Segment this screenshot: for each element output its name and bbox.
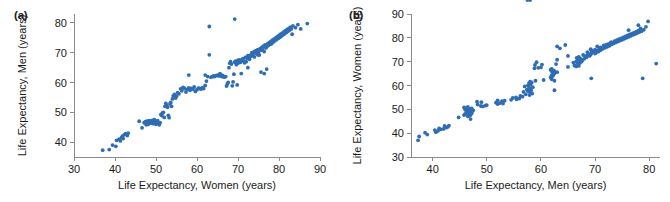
x-tick-label: 60 (535, 163, 547, 175)
data-point (256, 53, 260, 57)
figure-root: (a) 304050607080904050607080Life Expecta… (0, 0, 670, 202)
x-tick-label: 50 (150, 163, 162, 175)
panel-b: (b) 405060708030405060708090Life Expecta… (335, 0, 670, 202)
data-point (496, 98, 500, 102)
data-point (259, 70, 263, 74)
data-point (161, 110, 165, 114)
data-point (563, 43, 567, 47)
data-point (231, 80, 235, 84)
data-point (577, 55, 581, 59)
data-point (265, 67, 269, 71)
data-point (220, 73, 224, 77)
data-point (447, 124, 451, 128)
x-tick-label: 80 (643, 163, 655, 175)
data-point (244, 60, 248, 64)
data-point (299, 27, 303, 31)
data-point (595, 45, 599, 49)
y-tick-label: 70 (392, 56, 404, 68)
data-point (555, 58, 559, 62)
data-points (101, 17, 309, 152)
data-point (203, 73, 207, 77)
data-point (462, 106, 466, 110)
data-point (599, 45, 603, 49)
x-tick-label: 90 (314, 163, 326, 175)
data-point (457, 116, 461, 120)
y-axis-title: Life Expectancy, Men (years) (16, 15, 28, 157)
y-tick-label: 40 (392, 127, 404, 139)
x-axis-title: Life Expectancy, Women (years) (118, 179, 276, 191)
data-point (555, 45, 559, 49)
data-point (534, 79, 538, 83)
data-point (236, 58, 240, 62)
data-point (540, 63, 544, 67)
x-tick-label: 30 (68, 163, 80, 175)
data-point (177, 92, 181, 96)
data-point (170, 104, 174, 108)
data-point (554, 62, 558, 66)
data-point (417, 135, 421, 139)
data-point (485, 103, 489, 107)
data-point (227, 66, 231, 70)
data-point (230, 84, 234, 88)
y-tick-label: 40 (55, 136, 67, 148)
data-point (522, 90, 526, 94)
data-point (553, 79, 557, 83)
data-point (589, 76, 593, 80)
data-point (528, 80, 532, 84)
x-tick-label: 40 (427, 163, 439, 175)
data-point (296, 23, 300, 27)
y-tick-label: 50 (392, 103, 404, 115)
data-point (162, 115, 166, 119)
data-point (207, 25, 211, 29)
data-point (525, 0, 529, 2)
data-point (518, 94, 522, 98)
y-tick-label: 80 (392, 32, 404, 44)
data-point (466, 105, 470, 109)
data-point (235, 83, 239, 87)
data-point (523, 85, 527, 89)
data-point (580, 60, 584, 64)
panel-a: (a) 304050607080904050607080Life Expecta… (0, 0, 335, 202)
data-point (203, 84, 207, 88)
data-point (586, 50, 590, 54)
data-point (443, 124, 447, 128)
data-point (542, 78, 546, 82)
data-point (589, 48, 593, 52)
data-point (470, 106, 474, 110)
y-tick-label: 60 (392, 80, 404, 92)
data-point (479, 100, 483, 104)
x-tick-label: 50 (481, 163, 493, 175)
data-point (609, 40, 613, 44)
panel-b-scatter-plot: 405060708030405060708090Life Expectancy,… (335, 0, 670, 202)
y-tick-label: 50 (55, 106, 67, 118)
data-point (566, 54, 570, 58)
data-point (469, 117, 473, 121)
data-point (636, 23, 640, 27)
data-point (535, 60, 539, 64)
data-point (107, 148, 111, 152)
data-point (233, 17, 237, 21)
data-point (305, 22, 309, 26)
data-point (566, 65, 570, 69)
data-point (230, 62, 234, 66)
data-points (416, 0, 658, 142)
y-tick-label: 80 (55, 17, 67, 29)
data-point (232, 72, 236, 76)
data-point (433, 128, 437, 132)
x-tick-label: 70 (589, 163, 601, 175)
x-tick-label: 60 (191, 163, 203, 175)
data-point (111, 143, 115, 147)
data-point (646, 19, 650, 23)
data-point (192, 85, 196, 89)
data-point (641, 76, 645, 80)
data-point (140, 126, 144, 130)
data-point (101, 148, 105, 152)
data-point (294, 26, 298, 30)
data-point (437, 126, 441, 130)
data-point (479, 104, 483, 108)
data-point (290, 32, 294, 36)
data-point (246, 66, 250, 70)
data-point (423, 131, 427, 135)
data-point (239, 72, 243, 76)
data-point (511, 96, 515, 100)
